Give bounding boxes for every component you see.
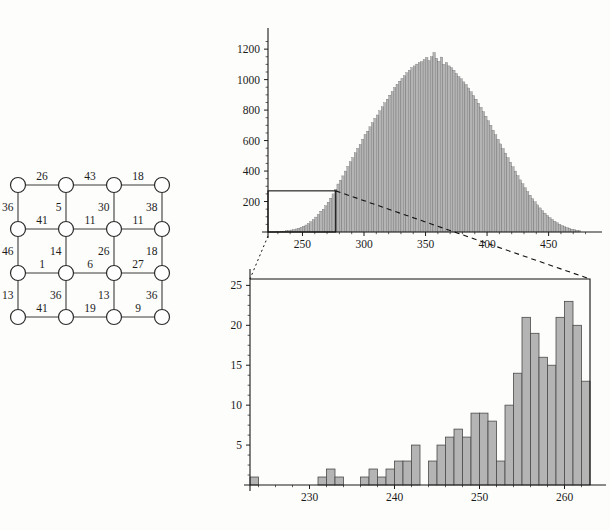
grid-edge-weight-label: 9 [135, 302, 141, 314]
histogram-bar [454, 429, 463, 485]
grid-edge-weight-label: 13 [98, 289, 110, 301]
grid-node[interactable] [59, 266, 74, 281]
histogram-bar [488, 421, 497, 485]
grid-node[interactable] [11, 222, 26, 237]
histogram-bar [430, 57, 432, 232]
histogram-bar [561, 226, 563, 232]
histogram-bar [497, 461, 506, 485]
histogram-bar [344, 171, 346, 232]
histogram-bar [460, 79, 462, 232]
histogram-bar [504, 153, 506, 232]
histogram-bar [467, 88, 469, 232]
histogram-bar [426, 58, 428, 232]
histogram-bar [389, 95, 391, 232]
histogram-bar [386, 469, 395, 485]
histogram-bars [250, 301, 590, 485]
grid-node[interactable] [155, 266, 170, 281]
x-axis-tick-label: 230 [301, 491, 319, 503]
histogram-detail-panel: 230240250260510152025 [210, 255, 610, 530]
histogram-bar [325, 206, 327, 232]
histogram-bar [544, 213, 546, 232]
grid-edge-weight-label: 18 [132, 170, 144, 182]
histogram-bar [482, 112, 484, 232]
x-axis-tick-label: 300 [355, 238, 373, 250]
histogram-bar [471, 413, 480, 485]
histogram-bar [403, 76, 405, 232]
grid-node[interactable] [59, 310, 74, 325]
grid-graph-panel: 2643184111111627411993653038461426181336… [0, 160, 210, 340]
histogram-bar [450, 68, 452, 232]
histogram-bar [480, 107, 482, 232]
x-axis-tick-label: 250 [471, 491, 489, 503]
grid-edge-weight-label: 36 [2, 201, 14, 213]
y-axis-tick-label: 400 [243, 165, 261, 177]
grid-node[interactable] [155, 222, 170, 237]
histogram-bar [565, 301, 574, 485]
histogram-bar [335, 477, 344, 485]
y-axis-tick-label: 10 [231, 399, 243, 411]
y-axis-tick-label: 5 [236, 439, 242, 451]
grid-graph-svg: 2643184111111627411993653038461426181336… [0, 160, 210, 340]
grid-node[interactable] [155, 178, 170, 193]
histogram-bar [529, 195, 531, 232]
x-axis-tick-label: 400 [478, 238, 496, 250]
x-axis-tick-label: 240 [386, 491, 404, 503]
grid-node[interactable] [59, 222, 74, 237]
histogram-bar [318, 477, 327, 485]
grid-node[interactable] [107, 222, 122, 237]
grid-edge-weight-label: 26 [36, 170, 48, 182]
histogram-bar [312, 220, 314, 232]
grid-node[interactable] [107, 266, 122, 281]
histogram-bar [462, 82, 464, 232]
histogram-bar [412, 445, 421, 485]
grid-edge-weight-label: 6 [87, 258, 93, 270]
histogram-bar [369, 127, 371, 232]
grid-edge-weight-label: 5 [56, 201, 62, 213]
y-axis-tick-label: 25 [231, 279, 243, 291]
grid-edge-weight-label: 1 [39, 258, 45, 270]
histogram-bar [539, 357, 548, 485]
grid-node[interactable] [11, 178, 26, 193]
histogram-bar [582, 381, 591, 485]
histogram-bar [485, 116, 487, 232]
histogram-bar [546, 216, 548, 232]
histogram-bar [317, 214, 319, 232]
histogram-bar [352, 158, 354, 232]
grid-node[interactable] [155, 310, 170, 325]
grid-node[interactable] [59, 178, 74, 193]
histogram-bar [472, 96, 474, 232]
histogram-bar [453, 70, 455, 232]
histogram-bar [339, 180, 341, 232]
grid-node[interactable] [11, 266, 26, 281]
grid-node[interactable] [11, 310, 26, 325]
y-axis-tick-label: 1200 [237, 43, 260, 55]
histogram-bar [361, 477, 370, 485]
y-axis-tick-label: 200 [243, 196, 261, 208]
histogram-bar [563, 227, 565, 232]
histogram-bar [566, 228, 568, 232]
grid-edge-weight-label: 41 [36, 302, 48, 314]
histogram-bar [548, 365, 557, 485]
histogram-bar [435, 58, 437, 232]
histogram-bar [406, 73, 408, 232]
grid-node[interactable] [107, 310, 122, 325]
histogram-bar [437, 445, 446, 485]
histogram-bar [517, 176, 519, 232]
grid-node[interactable] [107, 178, 122, 193]
grid-edge-weight-label: 11 [84, 214, 95, 226]
histogram-bar [386, 99, 388, 232]
histogram-bar [573, 325, 582, 485]
grid-edge-weight-label: 19 [84, 302, 96, 314]
grid-edge-weight-label: 26 [98, 245, 110, 257]
histogram-bar [554, 221, 556, 232]
histogram-bar [531, 199, 533, 232]
histogram-bar [374, 118, 376, 232]
histogram-bar [522, 184, 524, 232]
grid-edge-weight-label: 46 [2, 245, 14, 257]
histogram-bar [549, 218, 551, 232]
x-axis-tick-label: 250 [294, 238, 312, 250]
grid-edge-weight-label: 38 [146, 201, 158, 213]
histogram-bar [433, 52, 435, 232]
histogram-bar [396, 84, 398, 232]
histogram-bar [327, 202, 329, 232]
